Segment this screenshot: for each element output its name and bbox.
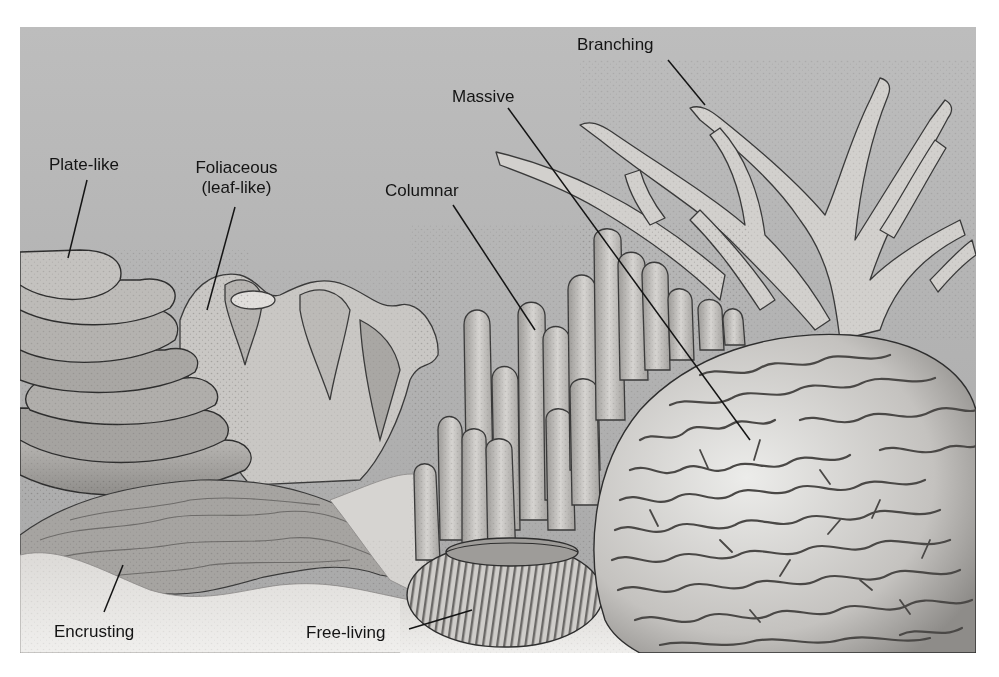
label-branching: Branching	[577, 35, 654, 55]
coral-artwork	[20, 27, 976, 653]
label-foliaceous: Foliaceous (leaf-like)	[184, 158, 289, 197]
label-free-living: Free-living	[306, 623, 385, 643]
label-foliaceous-title: Foliaceous	[184, 158, 289, 178]
coral-illustration: Plate-like Foliaceous (leaf-like) Column…	[20, 27, 976, 653]
label-foliaceous-subtitle: (leaf-like)	[184, 178, 289, 198]
label-massive: Massive	[452, 87, 514, 107]
label-plate-like: Plate-like	[49, 155, 119, 175]
label-encrusting: Encrusting	[54, 622, 134, 642]
label-columnar: Columnar	[385, 181, 459, 201]
